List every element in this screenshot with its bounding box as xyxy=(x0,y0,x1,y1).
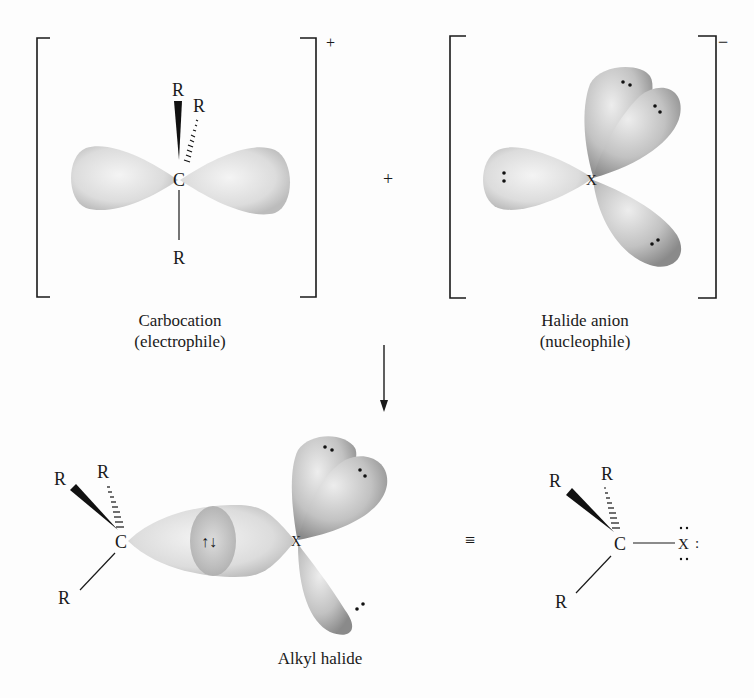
halide-caption: Halide anion (nucleophile) xyxy=(500,310,670,352)
equivalence-symbol: ≡ xyxy=(465,530,475,550)
halide-caption-role: (nucleophile) xyxy=(500,331,670,352)
product-single-bond xyxy=(80,553,115,590)
product-r-bottom: R xyxy=(58,588,70,608)
halide-lobe-lower xyxy=(593,180,681,267)
carbocation-caption-title: Carbocation xyxy=(100,310,260,331)
lewis-halogen-label: X xyxy=(678,536,689,552)
bonding-electron-pair: ↑↓ xyxy=(201,533,217,550)
reaction-diagram: R R C R + + − X ↑ xyxy=(0,0,754,698)
hash-bond xyxy=(184,120,198,162)
alkyl-halide-orbital: ↑↓ X R R C R xyxy=(54,436,387,635)
carbon-atom-label: C xyxy=(173,170,185,190)
carbocation-caption-role: (electrophile) xyxy=(100,331,260,352)
substituent-r-top: R xyxy=(172,80,184,100)
right-bracket-halide xyxy=(698,36,716,298)
substituent-r-bottom: R xyxy=(173,248,185,268)
lewis-r-hash: R xyxy=(601,464,613,484)
alkyl-halide-caption: Alkyl halide xyxy=(250,648,390,669)
lewis-lone-pair-right: : xyxy=(695,535,699,551)
product-r-wedge: R xyxy=(54,469,66,489)
lewis-r-wedge: R xyxy=(549,471,561,491)
alkyl-halide-lewis-structure: R R C R X : xyxy=(549,464,699,612)
negative-charge: − xyxy=(718,32,728,52)
substituent-r-hash: R xyxy=(193,96,205,116)
halide-lobe-left xyxy=(483,147,593,210)
product-halogen-label: X xyxy=(291,534,301,549)
carbocation-caption: Carbocation (electrophile) xyxy=(100,310,260,352)
lewis-r-bottom: R xyxy=(555,592,567,612)
product-halide-lobe-lower xyxy=(298,544,352,635)
halogen-atom-label: X xyxy=(586,172,597,188)
left-bracket xyxy=(37,38,50,297)
p-orbital-right-lobe xyxy=(180,147,290,214)
lewis-carbon-label: C xyxy=(614,534,626,554)
plus-sign: + xyxy=(383,169,393,189)
lewis-single-bond xyxy=(576,556,611,593)
reaction-arrow-down-icon xyxy=(380,345,388,412)
left-bracket-halide xyxy=(450,36,466,298)
right-bracket xyxy=(300,38,316,297)
halide-anion-group: − X xyxy=(450,32,728,298)
lewis-hash-bond xyxy=(604,488,620,528)
halide-caption-title: Halide anion xyxy=(500,310,670,331)
positive-charge: + xyxy=(326,34,335,51)
product-carbon-label: C xyxy=(115,532,127,552)
carbocation-group: R R C R + xyxy=(37,34,335,297)
wedge-bond xyxy=(174,101,182,160)
product-r-hash: R xyxy=(97,462,109,482)
product-wedge-bond xyxy=(70,484,118,530)
lewis-wedge-bond xyxy=(566,488,614,532)
p-orbital-left-lobe xyxy=(71,146,178,210)
